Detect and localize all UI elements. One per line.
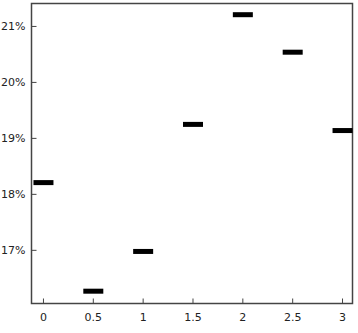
scatter-chart: 17%18%19%20%21% 00.511.522.53 <box>0 0 358 333</box>
data-point-marker <box>333 128 353 133</box>
y-tick-label: 18% <box>1 188 25 201</box>
data-point-marker <box>183 122 203 127</box>
x-tick-label: 0.5 <box>85 311 103 324</box>
y-tick-label: 17% <box>1 244 25 257</box>
x-tick-label: 2.5 <box>284 311 302 324</box>
y-tick-label: 21% <box>1 20 25 33</box>
data-point-marker <box>133 249 153 254</box>
plot-frame <box>32 4 353 304</box>
x-tick-label: 2 <box>239 311 246 324</box>
data-point-marker <box>33 180 53 185</box>
y-tick-label: 20% <box>1 76 25 89</box>
x-tick-label: 1 <box>140 311 147 324</box>
x-tick-label: 1.5 <box>184 311 202 324</box>
data-point-marker <box>83 289 103 294</box>
data-point-marker <box>233 12 253 17</box>
x-tick-label: 0 <box>40 311 47 324</box>
data-point-marker <box>283 50 303 55</box>
y-tick-label: 19% <box>1 132 25 145</box>
x-tick-label: 3 <box>339 311 346 324</box>
